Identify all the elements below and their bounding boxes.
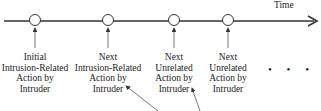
continuation-ellipsis: • • • xyxy=(268,63,315,75)
event-label-line: Action by xyxy=(0,73,75,84)
event-label-line: Intruder xyxy=(188,84,268,95)
event-label-line: Initial xyxy=(0,52,75,63)
event-label-line: Intrusion-Related xyxy=(0,63,75,74)
event-label-4: Next Unrelated Action by Intruder xyxy=(188,52,268,94)
event-label-line: Intruder xyxy=(0,84,75,95)
event-label-line: Unrelated xyxy=(188,63,268,74)
event-node-1 xyxy=(30,15,41,26)
event-label-1: Initial Intrusion-Related Action by Intr… xyxy=(0,52,75,94)
event-label-line: Action by xyxy=(188,73,268,84)
time-axis-label: Time xyxy=(274,0,294,10)
event-node-2 xyxy=(103,15,114,26)
event-label-line: Next xyxy=(188,52,268,63)
event-node-3 xyxy=(169,15,180,26)
event-node-4 xyxy=(223,15,234,26)
